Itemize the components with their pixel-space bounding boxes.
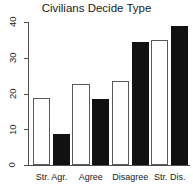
chart-container: Civilians Decide Type 010203040 Str. Agr… bbox=[0, 0, 193, 193]
y-tick-label: 30 bbox=[2, 53, 22, 63]
x-axis-line bbox=[29, 165, 190, 166]
bar bbox=[72, 84, 89, 166]
y-tick-label: 20 bbox=[2, 89, 22, 99]
y-tick-label: 40 bbox=[2, 17, 22, 27]
bar bbox=[112, 81, 129, 165]
y-tick-label: 0 bbox=[2, 160, 22, 170]
chart-title: Civilians Decide Type bbox=[0, 2, 193, 14]
x-axis-group-label: Str. Dis. bbox=[140, 172, 193, 182]
bar bbox=[92, 99, 109, 165]
y-tick-label: 10 bbox=[2, 124, 22, 134]
bar bbox=[53, 134, 70, 165]
plot-area bbox=[29, 22, 190, 165]
bar bbox=[151, 40, 168, 165]
bar bbox=[33, 98, 50, 165]
bar bbox=[132, 42, 149, 165]
bar bbox=[171, 26, 188, 165]
y-tick-mark bbox=[24, 165, 29, 166]
